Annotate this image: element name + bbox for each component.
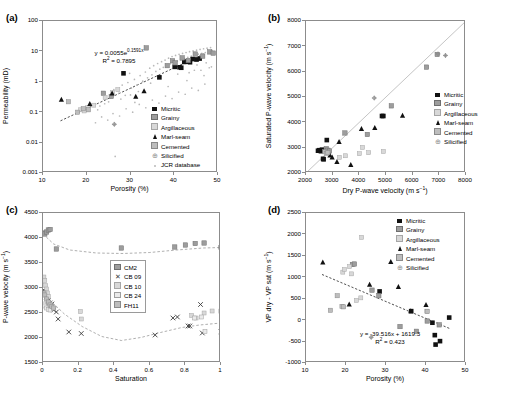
x-axis-title: Porosity (%): [305, 375, 465, 382]
y-tick: [39, 212, 42, 213]
legend-item[interactable]: Micritic: [150, 104, 200, 113]
legend-item[interactable]: ⊕Silicified: [395, 263, 440, 272]
legend-label: Argillaceous: [444, 109, 478, 118]
legend-item[interactable]: Marl-seam: [395, 244, 440, 253]
legend-item[interactable]: Argillaceous: [433, 109, 478, 118]
x-tick-label: 40: [159, 176, 187, 183]
legend-item[interactable]: Marl-seam: [150, 132, 200, 141]
legend-item[interactable]: ⊕Silicified: [433, 137, 478, 146]
legend-marker-icon: [433, 99, 442, 108]
x-tick-label: 0: [28, 366, 56, 373]
legend-label: Micritic: [406, 216, 425, 225]
y-tick-label: 2500: [263, 208, 301, 215]
x-tick: [86, 172, 87, 175]
legend-item[interactable]: Micritic: [395, 216, 440, 225]
y-tick-label: 2000: [0, 333, 38, 340]
x-tick-label: 8000: [451, 176, 479, 183]
regression-annotation: y = 0.0055e0.1591xR2 = 0.7895: [64, 48, 174, 64]
y-tick-label: -500: [263, 337, 301, 344]
legend-label: Cemented: [406, 254, 435, 263]
legend-item[interactable]: ✕CB 09: [113, 272, 141, 281]
legend-marker-icon: [150, 132, 159, 141]
legend-item[interactable]: Micritic: [433, 90, 478, 99]
legend-item[interactable]: Marl-seam: [433, 118, 478, 127]
legend-label: Cemented: [444, 128, 473, 137]
y-tick: [39, 312, 42, 313]
y-tick: [302, 298, 305, 299]
legend-label: Silicified: [444, 137, 467, 146]
legend-label: Marl-seam: [444, 118, 473, 127]
x-tick: [173, 172, 174, 175]
y-tick: [302, 341, 305, 342]
legend-marker-icon: [395, 225, 404, 234]
y-tick: [302, 121, 305, 122]
x-axis-title: Dry P-wave velocity (m s−1): [305, 185, 465, 194]
y-tick: [39, 362, 42, 363]
legend-item[interactable]: Argillaceous: [395, 235, 440, 244]
x-tick: [438, 172, 439, 175]
y-tick: [302, 20, 305, 21]
x-tick: [130, 172, 131, 175]
legend-marker-icon: [395, 254, 404, 263]
legend-marker-icon: [150, 113, 159, 122]
legend-item[interactable]: ⊕Silicified: [150, 151, 200, 160]
legend-item[interactable]: Argillaceous: [150, 123, 200, 132]
x-tick-label: 2000: [291, 176, 319, 183]
x-tick-label: 3000: [318, 176, 346, 183]
legend-b: MicriticGrainyArgillaceousMarl-seamCemen…: [433, 90, 478, 146]
y-tick-label: 0.01: [0, 138, 38, 145]
legend-label: Micritic: [444, 90, 463, 99]
x-tick: [465, 362, 466, 365]
x-axis-title: Saturation: [42, 375, 220, 382]
y-tick: [39, 50, 42, 51]
x-tick-label: 0.8: [170, 366, 198, 373]
legend-label: Marl-seam: [406, 244, 435, 253]
y-tick: [39, 172, 42, 173]
legend-item[interactable]: Cemented: [395, 254, 440, 263]
legend-item[interactable]: Grainy: [395, 225, 440, 234]
y-tick: [302, 147, 305, 148]
legend-marker-icon: [395, 244, 404, 253]
x-tick: [78, 362, 79, 365]
x-tick: [220, 362, 221, 365]
legend-label: Argillaceous: [161, 123, 195, 132]
y-tick-label: 4000: [0, 233, 38, 240]
legend-item[interactable]: CB 10: [113, 282, 141, 291]
x-tick-label: 40: [411, 366, 439, 373]
x-tick-label: 10: [291, 366, 319, 373]
x-tick-label: 50: [451, 366, 479, 373]
x-tick-label: 0.4: [99, 366, 127, 373]
x-tick: [358, 172, 359, 175]
y-axis-title: P-wave velocity (m s−1): [0, 251, 9, 323]
legend-item[interactable]: Grainy: [150, 113, 200, 122]
y-tick: [39, 81, 42, 82]
y-tick: [39, 337, 42, 338]
x-tick-label: 10: [28, 176, 56, 183]
y-tick: [302, 71, 305, 72]
y-tick-label: 0.001: [0, 168, 38, 175]
regression-annotation: y = -39.516x + 1619.3R2 = 0.423: [335, 330, 445, 345]
legend-label: Argillaceous: [406, 235, 440, 244]
legend-label: Grainy: [406, 225, 424, 234]
legend-item[interactable]: Grainy: [433, 99, 478, 108]
legend-item[interactable]: Cemented: [433, 128, 478, 137]
x-tick: [412, 172, 413, 175]
legend-marker-icon: [113, 291, 122, 300]
legend-item[interactable]: CB 24: [113, 291, 141, 300]
y-tick: [302, 255, 305, 256]
legend-label: FH11: [124, 301, 139, 310]
legend-item[interactable]: CM2: [113, 263, 141, 272]
legend-d: MicriticGrainyArgillaceousMarl-seamCemen…: [395, 216, 440, 272]
x-tick: [305, 172, 306, 175]
x-tick-label: 7000: [424, 176, 452, 183]
legend-item[interactable]: Cemented: [150, 142, 200, 151]
legend-item[interactable]: JCR database: [150, 160, 200, 169]
legend-item[interactable]: FH11: [113, 301, 141, 310]
legend-marker-icon: [433, 90, 442, 99]
x-tick: [385, 172, 386, 175]
legend-label: CB 10: [124, 282, 141, 291]
y-tick: [302, 276, 305, 277]
x-tick: [305, 362, 306, 365]
x-tick-label: 20: [72, 176, 100, 183]
y-tick: [39, 111, 42, 112]
